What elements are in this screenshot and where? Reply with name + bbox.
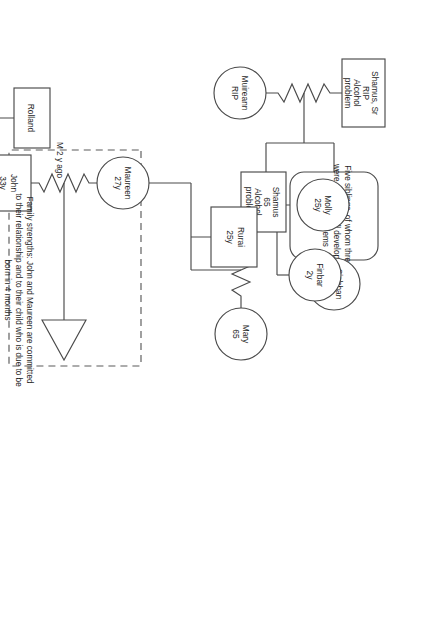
person-shamus-sr[interactable]: Shamus, Sr RIP Alcohol problem [342,59,385,127]
genogram-canvas: Shamus, Sr RIP Alcohol problem Muireann … [0,0,434,622]
note-family-strengths: Family strengths: John and Maureen are c… [3,193,34,387]
person-rurai-name: Rurai [236,227,246,247]
person-shamus-sr-line2: RIP [361,86,371,100]
person-rolland[interactable]: Rolland [14,88,50,148]
person-rurai-line2: 25y [225,230,235,244]
person-mary-name: Mary [241,325,251,344]
person-finbar[interactable]: Finbar 2y [289,249,341,301]
note-family-strengths-line1: Family strengths: John and Maureen are c… [25,196,34,383]
person-finbar-name: Finbar [315,263,325,287]
person-shamus-sr-line3: Alcohol [352,79,362,107]
person-molly-name: Molly [323,195,333,215]
person-rolland-name: Rolland [26,104,36,133]
person-mary[interactable]: Mary 65 [215,308,267,360]
genogram-rotated-layer: Shamus, Sr RIP Alcohol problem Muireann … [0,0,434,622]
person-finbar-line2: 2y [305,271,315,281]
person-maureen-line2: 27y [113,176,123,190]
person-muireann-name: Muireann [240,76,250,111]
marriage-date-label: M 2 y ago [55,142,64,178]
person-maureen-name: Maureen [123,166,133,199]
person-muireann[interactable]: Muireann RIP [214,67,266,119]
person-maureen[interactable]: Maureen 27y [97,157,149,209]
person-muireann-line2: RIP [230,86,240,100]
person-molly[interactable]: Molly 25y [297,179,349,231]
person-shamus-name: Shamus [271,187,281,218]
person-mary-line2: 65 [231,329,241,339]
note-family-strengths-line3: born in 4 months [3,260,12,321]
person-molly-line2: 25y [313,198,323,212]
person-unborn-child[interactable] [42,320,86,360]
person-rurai[interactable]: Rurai 25y [211,207,257,267]
person-shamus-sr-line4: problem [343,78,353,108]
genogram-svg: Shamus, Sr RIP Alcohol problem Muireann … [0,0,434,622]
person-john-name: John [9,174,19,193]
person-john-line2: 33y [0,176,8,190]
person-shamus-line2: 65 [262,197,272,207]
note-family-strengths-line2: to their relationship and to their child… [14,193,23,387]
person-shamus-sr-name: Shamus, Sr [370,71,380,115]
